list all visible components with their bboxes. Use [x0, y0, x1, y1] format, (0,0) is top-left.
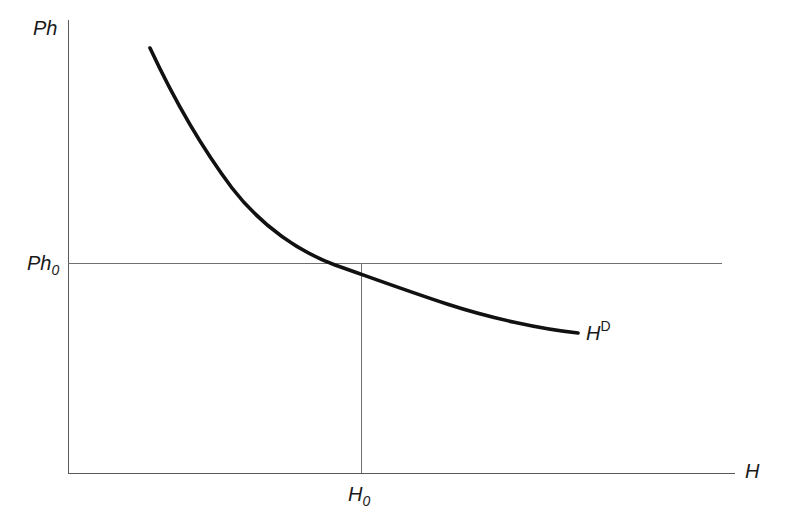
- y-tick-label-ph0: Ph0: [27, 252, 59, 277]
- x-tick-label-h0: H0: [348, 483, 370, 508]
- housing-demand-figure: Ph H Ph0 H0 HD: [0, 0, 795, 516]
- demand-curve-chart: Ph H Ph0 H0 HD: [0, 0, 795, 516]
- x-axis-label: H: [745, 460, 760, 482]
- y-axis-label: Ph: [33, 17, 57, 39]
- demand-curve-label: HD: [586, 318, 611, 345]
- demand-curve-path: [150, 48, 578, 333]
